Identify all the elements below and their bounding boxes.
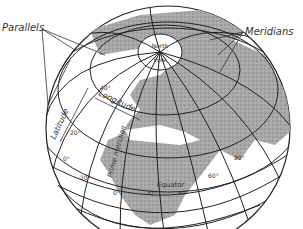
north-pole-marker: + bbox=[157, 49, 162, 56]
globe-diagram: North + Pole Parallels Meridians Latitud… bbox=[0, 0, 303, 229]
north-pole-text: North bbox=[152, 42, 169, 49]
degree-lon-20e: 20° bbox=[146, 189, 157, 196]
degree-lon-40: 40° bbox=[178, 189, 189, 196]
pole-text: Pole bbox=[154, 56, 167, 63]
parallels-label: Parallels bbox=[2, 22, 44, 33]
degree-lat-left-0: 0° bbox=[63, 155, 70, 162]
globe bbox=[33, 5, 303, 229]
degree-lon-0: 0° bbox=[113, 189, 120, 196]
meridians-label: Meridians bbox=[245, 26, 293, 37]
degree-lat-20: 20° bbox=[70, 129, 81, 136]
degree-lon-60: 60° bbox=[208, 172, 219, 179]
degree-lon-20w: 20° bbox=[80, 174, 91, 181]
degree-lat-40: 40° bbox=[100, 84, 111, 91]
equator-label: Equator bbox=[157, 181, 185, 189]
degree-lon-80: 80° bbox=[234, 154, 245, 161]
